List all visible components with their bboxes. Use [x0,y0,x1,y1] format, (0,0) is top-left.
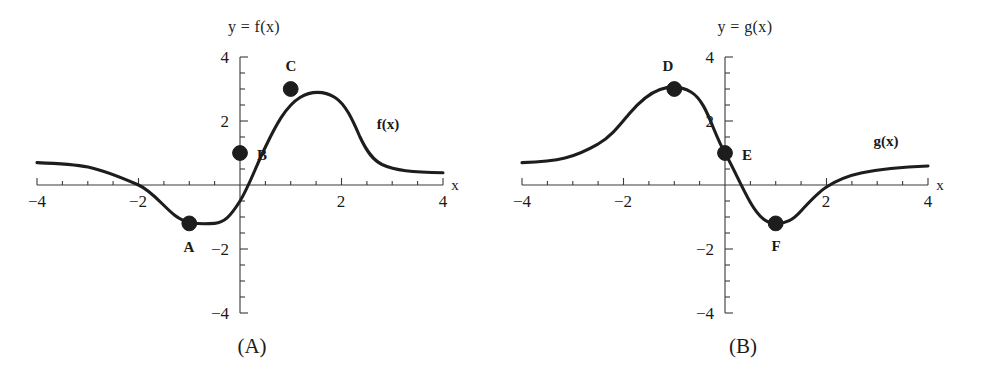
panel-a-point-a-marker [182,216,197,231]
panel-a-ytick-label-3: −4 [211,304,230,323]
panel-a: y = f(x) [0,0,492,383]
panel-b-ytick-label-2: −2 [696,240,714,259]
panel-a-point-c-label: C [286,58,297,74]
panel-a-xtick-label-2: 2 [337,192,346,211]
panel-b-plot: −4 −2 2 4 4 2 −2 −4 x D E F g(x) [493,0,985,345]
panel-a-xtick-label-0: −4 [28,192,47,211]
panel-a-xtick-label-3: 4 [439,192,448,211]
panel-a-point-a-label: A [184,239,195,255]
panel-b-point-d-label: D [663,58,674,74]
panel-a-point-b-label: B [257,147,267,163]
panel-b-ytick-label-0: 4 [706,48,715,67]
panel-b-ytick-label-3: −4 [696,304,715,323]
panel-b-caption: (B) [493,334,985,359]
panel-b: y = g(x) [493,0,985,383]
panel-a-ytick-label-0: 4 [221,48,230,67]
panel-a-point-c-marker [283,82,298,97]
panel-a-plot: −4 −2 2 4 4 2 −2 −4 x A B C f(x) [0,0,492,345]
panel-b-x-axis-name: x [936,177,944,193]
panel-b-xtick-label-2: 2 [822,192,831,211]
panel-a-xtick-label-1: −2 [129,192,147,211]
panel-b-curve-label: g(x) [874,133,899,150]
panel-b-xtick-label-3: 4 [924,192,933,211]
figure-container: y = f(x) [0,0,985,383]
panel-b-point-f-label: F [771,238,780,254]
panel-b-point-f-marker [768,216,783,231]
panel-a-curve-label: f(x) [377,116,400,133]
panel-a-point-b-marker [233,146,248,161]
panel-b-point-d-marker [667,82,682,97]
panel-a-ytick-label-1: 2 [221,112,230,131]
panel-a-x-axis-name: x [451,177,459,193]
panel-a-ytick-label-2: −2 [211,240,229,259]
panel-b-point-e-marker [718,146,733,161]
panel-a-caption: (A) [0,334,498,359]
panel-b-xtick-label-1: −2 [614,192,632,211]
panel-b-point-e-label: E [742,147,752,163]
panel-b-xtick-label-0: −4 [513,192,532,211]
